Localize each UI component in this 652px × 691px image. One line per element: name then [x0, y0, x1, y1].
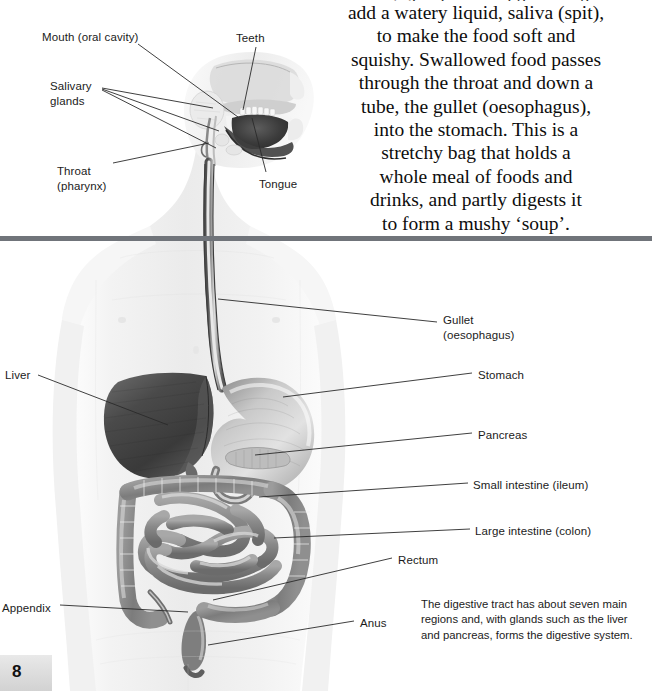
- label-mouth: Mouth (oral cavity): [42, 30, 138, 45]
- section-divider-rule: [0, 236, 652, 241]
- body-text-line: drinks, and partly digests it: [300, 188, 652, 211]
- head-section: [184, 52, 314, 168]
- body-text-line: to make the food soft and: [300, 24, 652, 47]
- label-gullet: Gullet (oesophagus): [443, 313, 515, 342]
- label-liver: Liver: [5, 368, 30, 383]
- label-rectum: Rectum: [398, 553, 438, 568]
- page-number-block: 8: [0, 655, 52, 691]
- body-text-line: through the throat and down a: [300, 71, 652, 94]
- body-text-line: into the stomach. This is a: [300, 118, 652, 141]
- body-text-line: squishy. Swallowed food passes: [300, 48, 652, 71]
- body-text-block: ...ing glands around the mouth add a wat…: [300, 0, 652, 235]
- label-stomach: Stomach: [478, 368, 524, 383]
- page-number: 8: [12, 662, 21, 682]
- label-tongue: Tongue: [259, 177, 297, 192]
- label-large-intestine: Large intestine (colon): [475, 524, 591, 539]
- label-appendix: Appendix: [2, 601, 51, 616]
- body-text-line: whole meal of foods and: [300, 165, 652, 188]
- pancreas: [226, 448, 291, 469]
- body-text-line: stretchy bag that holds a: [300, 141, 652, 164]
- label-throat: Throat (pharynx): [57, 164, 106, 193]
- figure-caption: The digestive tract has about seven main…: [421, 597, 649, 643]
- label-pancreas: Pancreas: [478, 428, 527, 443]
- body-text-line: tube, the gullet (oesophagus),: [300, 95, 652, 118]
- body-text-line: add a watery liquid, saliva (spit),: [300, 1, 652, 24]
- label-anus: Anus: [360, 616, 387, 631]
- label-small-intestine: Small intestine (ileum): [473, 478, 588, 493]
- body-text-line: to form a mushy ‘soup’.: [300, 212, 652, 235]
- label-teeth: Teeth: [236, 31, 265, 46]
- body-text-clipped-line: ...ing glands around the mouth: [300, 0, 652, 1]
- textbook-page: Mouth (oral cavity) Salivary glands Thro…: [0, 0, 652, 691]
- label-salivary-glands: Salivary glands: [50, 79, 92, 108]
